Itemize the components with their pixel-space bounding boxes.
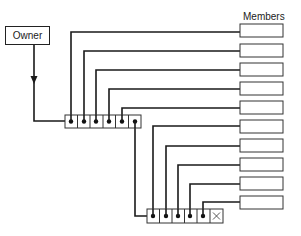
member-box (240, 44, 283, 57)
pointer-block-1 (65, 115, 141, 128)
member-box (240, 82, 283, 95)
member-box (240, 120, 283, 133)
arrow-down-icon (31, 76, 38, 84)
owner-connector (34, 45, 65, 121)
pointer-line-2 (84, 51, 240, 121)
member-box (240, 196, 283, 209)
owner-label: Owner (13, 30, 42, 41)
member-box (240, 139, 283, 152)
member-box (240, 24, 283, 37)
pointer-block-2 (147, 209, 223, 223)
member-box (240, 158, 283, 171)
member-box (240, 63, 283, 76)
owner-box: Owner (5, 26, 50, 45)
member-box (240, 101, 283, 114)
members-label: Members (243, 11, 285, 22)
pointer-line-8 (178, 165, 240, 216)
overflow-connector (135, 121, 147, 216)
member-boxes (240, 24, 283, 209)
member-box (240, 177, 283, 190)
pointer-line-3 (96, 70, 240, 121)
